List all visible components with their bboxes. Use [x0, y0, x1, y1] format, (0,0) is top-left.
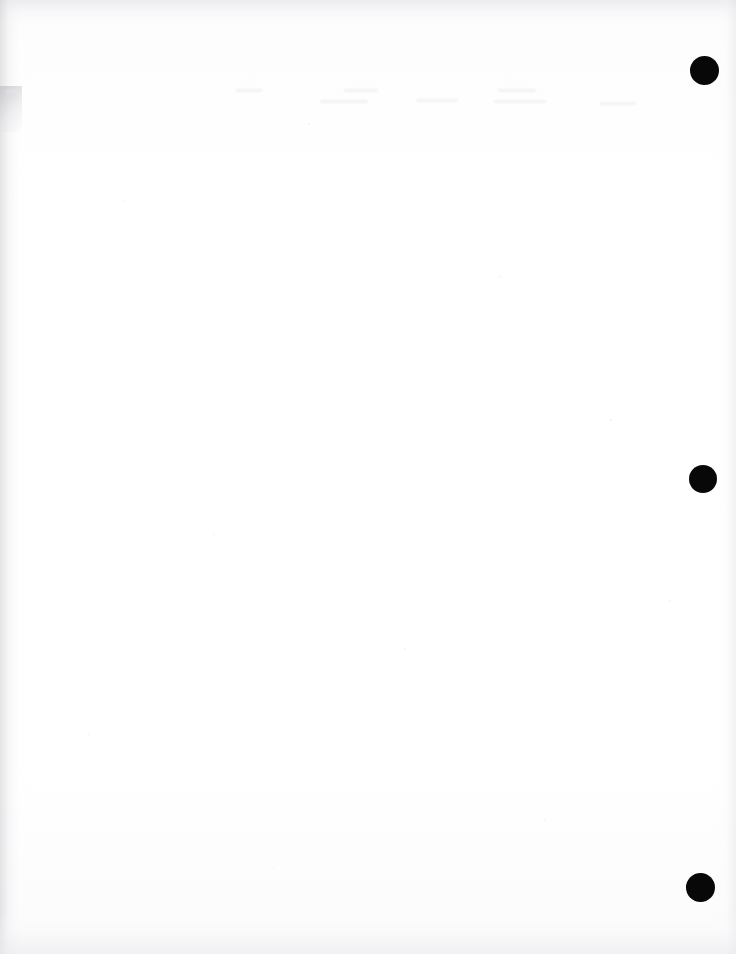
- top-right-mark: [690, 56, 719, 85]
- scan-edge-bottom: [0, 912, 736, 954]
- scan-edge-top: [0, 0, 736, 22]
- scan-edge-right: [716, 0, 736, 954]
- paper-background: [0, 0, 736, 954]
- scan-edge-left: [0, 0, 26, 954]
- bottom-right-mark: [686, 873, 715, 902]
- middle-right-mark: [689, 465, 717, 493]
- scanned-page: [0, 0, 736, 954]
- top-left-gray-smudge: [0, 86, 22, 132]
